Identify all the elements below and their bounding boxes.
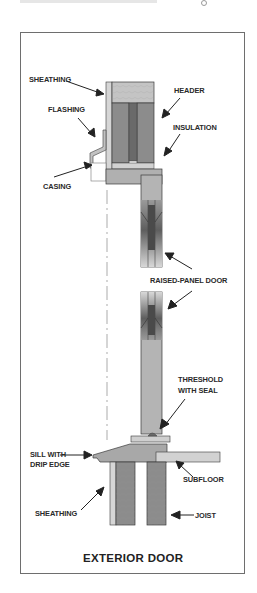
label-joist: JOIST <box>195 511 216 520</box>
label-sill-line1: SILL WITH <box>30 450 66 459</box>
exterior-door-diagram: SHEATHING FLASHING CASING HEADER INSULAT… <box>0 0 257 593</box>
label-flashing: FLASHING <box>48 105 85 114</box>
insulation-strip <box>112 163 154 169</box>
label-subfloor: SUBFLOOR <box>183 475 224 484</box>
raised-panel-bottom <box>148 305 155 335</box>
threshold <box>131 436 170 442</box>
raised-panel-top <box>148 205 155 250</box>
label-casing: CASING <box>43 182 71 191</box>
door <box>141 175 162 434</box>
casing <box>91 163 106 181</box>
label-threshold-line2: WITH SEAL <box>178 386 218 395</box>
header-right-stud <box>137 103 154 163</box>
label-sheathing-bottom: SHEATHING <box>35 509 77 518</box>
label-sheathing-top: SHEATHING <box>29 75 71 84</box>
label-threshold-line1: THRESHOLD <box>178 375 224 384</box>
header-spacer <box>129 103 137 161</box>
label-insulation: INSULATION <box>173 123 217 132</box>
label-sill-line2: DRIP EDGE <box>30 460 70 469</box>
sheathing-top <box>106 82 112 170</box>
label-header: HEADER <box>174 86 205 95</box>
diagram-title: EXTERIOR DOOR <box>83 552 184 564</box>
label-raised-panel-door: RAISED-PANEL DOOR <box>150 276 228 285</box>
top-assembly <box>90 82 162 184</box>
sheathing-bottom <box>110 462 116 525</box>
subfloor <box>156 452 220 462</box>
header-left-stud <box>112 103 129 163</box>
